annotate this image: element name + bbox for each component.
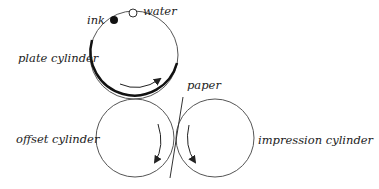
ink-dot <box>110 16 118 24</box>
paper-line <box>170 97 183 178</box>
ink-label: ink <box>87 13 105 27</box>
paper-label: paper <box>187 78 222 92</box>
plate-cylinder-label: plate cylinder <box>18 51 100 65</box>
impression-rotation-arrow <box>187 125 195 162</box>
offset-printing-diagram: ink water plate cylinder paper offset cy… <box>0 0 379 189</box>
offset-cylinder-label: offset cylinder <box>16 132 101 146</box>
plate-rotation-arrow <box>120 79 160 88</box>
water-label: water <box>143 4 178 18</box>
water-dot <box>129 9 137 17</box>
impression-cylinder-label: impression cylinder <box>258 133 375 147</box>
offset-cylinder <box>96 99 174 177</box>
offset-rotation-arrow <box>155 124 161 162</box>
